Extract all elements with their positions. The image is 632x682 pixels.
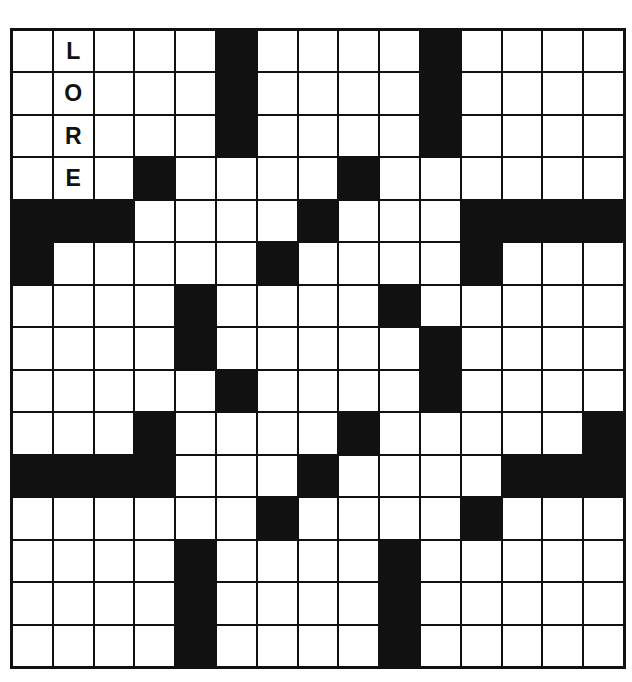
- crossword-cell-r8-c11[interactable]: [462, 371, 501, 411]
- crossword-cell-r5-c9[interactable]: [380, 243, 419, 283]
- crossword-cell-r9-c7[interactable]: [299, 413, 338, 453]
- crossword-cell-r8-c2[interactable]: [95, 371, 134, 411]
- crossword-cell-r14-c0[interactable]: [13, 626, 52, 666]
- crossword-cell-r4-c5[interactable]: [217, 201, 256, 241]
- crossword-cell-r5-c7[interactable]: [299, 243, 338, 283]
- crossword-cell-r7-c2[interactable]: [95, 328, 134, 368]
- crossword-cell-r5-c4[interactable]: [176, 243, 215, 283]
- crossword-cell-r0-c1[interactable]: L: [54, 31, 93, 71]
- crossword-cell-r1-c4[interactable]: [176, 73, 215, 113]
- crossword-cell-r4-c8[interactable]: [339, 201, 378, 241]
- crossword-cell-r13-c5[interactable]: [217, 583, 256, 623]
- crossword-cell-r5-c13[interactable]: [543, 243, 582, 283]
- crossword-cell-r12-c1[interactable]: [54, 541, 93, 581]
- crossword-cell-r0-c2[interactable]: [95, 31, 134, 71]
- crossword-cell-r14-c6[interactable]: [258, 626, 297, 666]
- crossword-cell-r7-c8[interactable]: [339, 328, 378, 368]
- crossword-cell-r7-c1[interactable]: [54, 328, 93, 368]
- crossword-cell-r12-c14[interactable]: [584, 541, 623, 581]
- crossword-cell-r3-c10[interactable]: [421, 158, 460, 198]
- crossword-cell-r6-c2[interactable]: [95, 286, 134, 326]
- crossword-cell-r9-c1[interactable]: [54, 413, 93, 453]
- crossword-cell-r13-c3[interactable]: [135, 583, 174, 623]
- crossword-cell-r14-c13[interactable]: [543, 626, 582, 666]
- crossword-cell-r6-c14[interactable]: [584, 286, 623, 326]
- crossword-cell-r11-c4[interactable]: [176, 498, 215, 538]
- crossword-cell-r1-c11[interactable]: [462, 73, 501, 113]
- crossword-cell-r14-c3[interactable]: [135, 626, 174, 666]
- crossword-cell-r3-c11[interactable]: [462, 158, 501, 198]
- crossword-cell-r6-c13[interactable]: [543, 286, 582, 326]
- crossword-cell-r2-c11[interactable]: [462, 116, 501, 156]
- crossword-cell-r8-c8[interactable]: [339, 371, 378, 411]
- crossword-cell-r5-c14[interactable]: [584, 243, 623, 283]
- crossword-cell-r3-c14[interactable]: [584, 158, 623, 198]
- crossword-cell-r14-c12[interactable]: [503, 626, 542, 666]
- crossword-cell-r4-c4[interactable]: [176, 201, 215, 241]
- crossword-cell-r7-c7[interactable]: [299, 328, 338, 368]
- crossword-cell-r0-c6[interactable]: [258, 31, 297, 71]
- crossword-cell-r11-c2[interactable]: [95, 498, 134, 538]
- crossword-cell-r6-c0[interactable]: [13, 286, 52, 326]
- crossword-cell-r6-c7[interactable]: [299, 286, 338, 326]
- crossword-cell-r10-c6[interactable]: [258, 456, 297, 496]
- crossword-cell-r13-c12[interactable]: [503, 583, 542, 623]
- crossword-cell-r2-c0[interactable]: [13, 116, 52, 156]
- crossword-cell-r12-c3[interactable]: [135, 541, 174, 581]
- crossword-cell-r3-c6[interactable]: [258, 158, 297, 198]
- crossword-cell-r9-c5[interactable]: [217, 413, 256, 453]
- crossword-cell-r0-c7[interactable]: [299, 31, 338, 71]
- crossword-cell-r9-c0[interactable]: [13, 413, 52, 453]
- crossword-cell-r11-c8[interactable]: [339, 498, 378, 538]
- crossword-cell-r9-c11[interactable]: [462, 413, 501, 453]
- crossword-cell-r2-c6[interactable]: [258, 116, 297, 156]
- crossword-cell-r12-c5[interactable]: [217, 541, 256, 581]
- crossword-cell-r7-c3[interactable]: [135, 328, 174, 368]
- crossword-cell-r0-c8[interactable]: [339, 31, 378, 71]
- crossword-cell-r6-c6[interactable]: [258, 286, 297, 326]
- crossword-cell-r1-c12[interactable]: [503, 73, 542, 113]
- crossword-cell-r1-c14[interactable]: [584, 73, 623, 113]
- crossword-cell-r0-c3[interactable]: [135, 31, 174, 71]
- crossword-cell-r2-c12[interactable]: [503, 116, 542, 156]
- crossword-cell-r14-c2[interactable]: [95, 626, 134, 666]
- crossword-cell-r11-c7[interactable]: [299, 498, 338, 538]
- crossword-cell-r3-c2[interactable]: [95, 158, 134, 198]
- crossword-cell-r10-c11[interactable]: [462, 456, 501, 496]
- crossword-cell-r5-c5[interactable]: [217, 243, 256, 283]
- crossword-cell-r0-c9[interactable]: [380, 31, 419, 71]
- crossword-cell-r3-c1[interactable]: E: [54, 158, 93, 198]
- crossword-cell-r6-c1[interactable]: [54, 286, 93, 326]
- crossword-cell-r11-c10[interactable]: [421, 498, 460, 538]
- crossword-cell-r10-c8[interactable]: [339, 456, 378, 496]
- crossword-cell-r5-c12[interactable]: [503, 243, 542, 283]
- crossword-cell-r13-c7[interactable]: [299, 583, 338, 623]
- crossword-cell-r7-c11[interactable]: [462, 328, 501, 368]
- crossword-cell-r13-c11[interactable]: [462, 583, 501, 623]
- crossword-cell-r8-c13[interactable]: [543, 371, 582, 411]
- crossword-cell-r2-c8[interactable]: [339, 116, 378, 156]
- crossword-cell-r12-c12[interactable]: [503, 541, 542, 581]
- crossword-cell-r7-c0[interactable]: [13, 328, 52, 368]
- crossword-cell-r12-c10[interactable]: [421, 541, 460, 581]
- crossword-cell-r2-c14[interactable]: [584, 116, 623, 156]
- crossword-cell-r1-c8[interactable]: [339, 73, 378, 113]
- crossword-cell-r12-c2[interactable]: [95, 541, 134, 581]
- crossword-cell-r7-c12[interactable]: [503, 328, 542, 368]
- crossword-cell-r3-c4[interactable]: [176, 158, 215, 198]
- crossword-cell-r5-c10[interactable]: [421, 243, 460, 283]
- crossword-cell-r14-c1[interactable]: [54, 626, 93, 666]
- crossword-cell-r1-c1[interactable]: O: [54, 73, 93, 113]
- crossword-cell-r6-c5[interactable]: [217, 286, 256, 326]
- crossword-cell-r1-c3[interactable]: [135, 73, 174, 113]
- crossword-cell-r13-c8[interactable]: [339, 583, 378, 623]
- crossword-cell-r9-c10[interactable]: [421, 413, 460, 453]
- crossword-cell-r13-c1[interactable]: [54, 583, 93, 623]
- crossword-cell-r10-c5[interactable]: [217, 456, 256, 496]
- crossword-cell-r1-c2[interactable]: [95, 73, 134, 113]
- crossword-cell-r5-c2[interactable]: [95, 243, 134, 283]
- crossword-cell-r3-c13[interactable]: [543, 158, 582, 198]
- crossword-cell-r3-c0[interactable]: [13, 158, 52, 198]
- crossword-cell-r6-c10[interactable]: [421, 286, 460, 326]
- crossword-cell-r14-c5[interactable]: [217, 626, 256, 666]
